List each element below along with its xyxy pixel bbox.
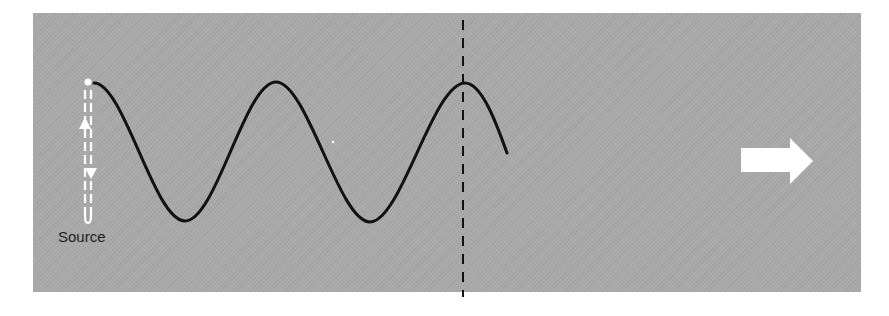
source-point (85, 79, 92, 86)
down-arrowhead-icon (85, 168, 97, 179)
sine-wave (94, 82, 507, 222)
source-label: Source (58, 229, 106, 244)
up-arrowhead-icon (79, 117, 91, 129)
speck (332, 141, 335, 144)
wave-diagram: Source (0, 0, 889, 316)
right-arrow-icon (741, 138, 813, 184)
source-oscillator-icon (79, 79, 97, 224)
